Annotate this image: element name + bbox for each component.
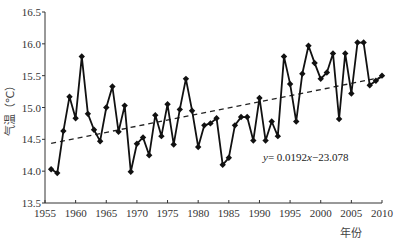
diamond-marker xyxy=(189,107,195,113)
x-tick-label: 1955 xyxy=(34,207,57,219)
diamond-marker xyxy=(177,106,183,112)
diamond-marker xyxy=(158,133,164,139)
diamond-marker xyxy=(330,50,336,56)
regression-equation: y= 0.0192x−23.078 xyxy=(262,151,349,163)
diamond-marker xyxy=(201,122,207,128)
x-tick-label: 2005 xyxy=(340,207,363,219)
diamond-marker xyxy=(336,116,342,122)
x-tick-label: 1960 xyxy=(65,207,88,219)
diamond-marker xyxy=(79,53,85,59)
diamond-marker xyxy=(183,76,189,82)
x-tick-label: 1975 xyxy=(157,207,180,219)
y-tick-label: 15.0 xyxy=(22,102,42,114)
diamond-marker xyxy=(256,95,262,101)
diamond-marker xyxy=(146,152,152,158)
diamond-marker xyxy=(287,81,293,87)
x-tick-label: 2010 xyxy=(371,207,394,219)
diamond-marker xyxy=(152,112,158,118)
diamond-marker xyxy=(66,93,72,99)
diamond-marker xyxy=(250,137,256,143)
diamond-marker xyxy=(91,127,97,133)
diamond-marker xyxy=(305,43,311,49)
x-tick-label: 2000 xyxy=(310,207,333,219)
diamond-marker xyxy=(164,101,170,107)
diamond-marker xyxy=(281,53,287,59)
diamond-marker xyxy=(128,169,134,175)
x-axis-title: 年份 xyxy=(340,226,362,240)
diamond-marker xyxy=(85,111,91,117)
diamond-marker xyxy=(275,133,281,139)
diamond-marker xyxy=(103,104,109,110)
y-tick-label: 14.0 xyxy=(22,165,42,177)
diamond-marker xyxy=(72,115,78,121)
x-tick-label: 1985 xyxy=(218,207,241,219)
diamond-marker xyxy=(195,144,201,150)
diamond-marker xyxy=(360,39,366,45)
diamond-marker xyxy=(348,90,354,96)
diamond-marker xyxy=(342,50,348,56)
diamond-marker xyxy=(299,71,305,77)
y-tick-label: 15.5 xyxy=(22,70,42,82)
x-tick-label: 1970 xyxy=(126,207,149,219)
axes xyxy=(45,12,382,203)
x-tick-label: 1980 xyxy=(187,207,210,219)
diamond-marker xyxy=(60,128,66,134)
diamond-marker xyxy=(311,60,317,66)
diamond-marker xyxy=(262,137,268,143)
diamond-marker xyxy=(354,39,360,45)
diamond-marker xyxy=(115,128,121,134)
diamond-marker xyxy=(293,118,299,124)
diamond-marker xyxy=(109,83,115,89)
diamond-marker xyxy=(269,118,275,124)
y-tick-label: 16.0 xyxy=(22,38,42,50)
y-axis-title: 气温（℃） xyxy=(3,80,17,136)
temperature-trend-chart: 13.514.014.515.015.516.016.5195519601965… xyxy=(0,0,397,243)
y-tick-label: 14.5 xyxy=(22,133,42,145)
x-tick-label: 1995 xyxy=(279,207,302,219)
diamond-marker xyxy=(121,102,127,108)
diamond-marker xyxy=(244,114,250,120)
x-tick-label: 1965 xyxy=(95,207,118,219)
diamond-marker xyxy=(170,141,176,147)
y-tick-label: 16.5 xyxy=(22,6,42,18)
x-tick-label: 1990 xyxy=(248,207,271,219)
